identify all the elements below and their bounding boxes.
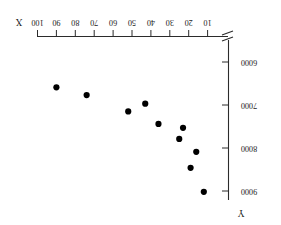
data-points-layer xyxy=(53,84,207,195)
y-axis-label: Y xyxy=(237,208,244,218)
y-tick-label: 6000 xyxy=(241,58,257,67)
data-point xyxy=(84,92,90,98)
x-tick-label: 70 xyxy=(90,18,98,27)
y-tick-label: 9000 xyxy=(241,187,257,196)
data-point xyxy=(180,125,186,131)
y-axis: 6000 7000 8000 9000 Y xyxy=(222,40,257,218)
data-point xyxy=(142,101,148,107)
data-point xyxy=(125,108,131,114)
x-axis: 100 90 80 70 60 50 40 30 20 10 X xyxy=(15,17,228,37)
x-tick-label: 50 xyxy=(128,18,136,27)
data-point xyxy=(201,189,207,195)
x-tick-label: 60 xyxy=(109,18,117,27)
data-point xyxy=(155,121,161,127)
x-tick-label: 80 xyxy=(71,18,79,27)
x-tick-label: 40 xyxy=(147,18,155,27)
y-tick-label: 7000 xyxy=(241,101,257,110)
x-tick-label: 100 xyxy=(31,18,43,27)
y-tick-label: 8000 xyxy=(241,144,257,153)
x-tick-label: 30 xyxy=(166,18,174,27)
x-tick-label: 10 xyxy=(204,18,212,27)
data-point xyxy=(187,165,193,171)
x-tick-label: 90 xyxy=(52,18,60,27)
data-point xyxy=(53,84,59,90)
data-point xyxy=(193,149,199,155)
x-tick-label: 20 xyxy=(185,18,193,27)
x-axis-label: X xyxy=(15,17,22,27)
data-point xyxy=(176,136,182,142)
scatter-chart: 100 90 80 70 60 50 40 30 20 10 X 6000 70… xyxy=(0,0,281,225)
